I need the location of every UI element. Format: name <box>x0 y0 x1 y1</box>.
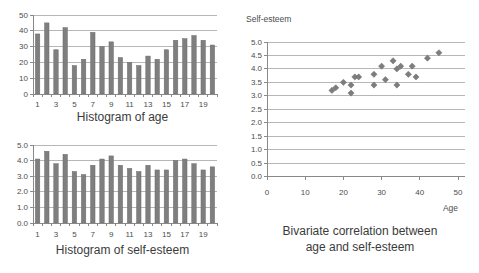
scatter-point <box>371 71 377 77</box>
histogram-bar <box>54 164 58 223</box>
tick-label: 2.5 <box>251 105 263 114</box>
histogram-bar <box>81 59 85 94</box>
histogram-bar <box>100 47 104 94</box>
histogram-bar <box>118 165 122 223</box>
scatter-point <box>379 63 385 69</box>
histogram-bar <box>155 59 159 94</box>
tick-label: 40 <box>19 26 28 35</box>
histogram-bar <box>164 50 168 94</box>
histogram-bar <box>146 56 150 94</box>
tick-label: 4.0 <box>17 156 29 165</box>
histogram-bar <box>72 66 76 94</box>
tick-label: 50 <box>19 11 28 20</box>
tick-label: 7 <box>91 230 96 239</box>
tick-label: 5.0 <box>17 141 29 150</box>
tick-label: 11 <box>125 230 134 239</box>
histogram-bar <box>109 156 113 223</box>
histogram-bar <box>91 32 95 94</box>
scatter-point <box>394 82 400 88</box>
histogram-bar <box>173 161 177 223</box>
tick-label: 15 <box>162 100 171 109</box>
scatter-point <box>348 90 354 96</box>
histogram-bar <box>201 40 205 94</box>
histogram-bar <box>137 66 141 94</box>
histogram-bar <box>63 154 67 223</box>
statistics-figure: 01020304050135791113151719 0.01.02.03.04… <box>0 0 479 273</box>
tick-label: 10 <box>301 188 310 197</box>
tick-label: 19 <box>199 100 208 109</box>
self-esteem-histogram-title: Histogram of self-esteem <box>15 243 230 258</box>
scatter-point <box>390 58 396 64</box>
histogram-bar <box>210 167 214 223</box>
tick-label: 0.0 <box>251 172 263 181</box>
tick-label: 5.0 <box>251 38 263 47</box>
histogram-bar <box>127 62 131 94</box>
tick-label: 5 <box>72 230 77 239</box>
tick-label: 30 <box>19 42 28 51</box>
scatter-point <box>382 77 388 83</box>
tick-label: 3 <box>54 230 59 239</box>
histogram-bar <box>146 165 150 223</box>
tick-label: 17 <box>180 230 189 239</box>
tick-label: 4.5 <box>251 51 263 60</box>
tick-label: 7 <box>91 100 96 109</box>
tick-label: 40 <box>415 188 424 197</box>
tick-label: 0 <box>265 188 270 197</box>
tick-label: 13 <box>144 230 153 239</box>
scatter-point <box>413 74 419 80</box>
tick-label: 19 <box>199 230 208 239</box>
tick-label: 1 <box>35 230 40 239</box>
tick-label: 10 <box>19 74 28 83</box>
tick-label: 4.0 <box>251 64 263 73</box>
tick-label: 20 <box>339 188 348 197</box>
age-histogram-title: Histogram of age <box>15 110 230 125</box>
tick-label: 30 <box>377 188 386 197</box>
tick-label: 9 <box>109 100 114 109</box>
tick-label: 11 <box>125 100 134 109</box>
histogram-bar <box>192 36 196 94</box>
scatter-point <box>371 82 377 88</box>
histogram-bar <box>183 39 187 94</box>
scatter-title-line2: age and self-esteem <box>252 240 468 255</box>
tick-label: 1.0 <box>251 145 263 154</box>
scatter-title-line1: Bivariate correlation between <box>252 224 468 239</box>
histogram-bar <box>35 159 39 223</box>
histogram-bar <box>210 45 214 94</box>
tick-label: 20 <box>19 58 28 67</box>
tick-label: 5 <box>72 100 77 109</box>
scatter-y-axis-title: Self-esteem <box>246 14 291 24</box>
histogram-bar <box>45 23 49 94</box>
histogram-bar <box>127 168 131 223</box>
histogram-bar <box>72 172 76 223</box>
scatter-point <box>409 63 415 69</box>
scatter-point <box>348 82 354 88</box>
tick-label: 9 <box>109 230 114 239</box>
tick-label: 17 <box>180 100 189 109</box>
tick-label: 3.0 <box>17 172 29 181</box>
tick-label: 50 <box>454 188 463 197</box>
tick-label: 0.5 <box>251 159 263 168</box>
histogram-bar <box>91 165 95 223</box>
histogram-bar <box>155 170 159 223</box>
histogram-bar <box>109 42 113 94</box>
tick-label: 3 <box>54 100 59 109</box>
tick-label: 3.5 <box>251 78 263 87</box>
tick-label: 13 <box>144 100 153 109</box>
scatter-point <box>356 74 362 80</box>
scatter-x-axis-title: Age <box>420 203 458 213</box>
histogram-bar <box>45 151 49 223</box>
histogram-bar <box>63 28 67 94</box>
histogram-bar <box>192 164 196 223</box>
scatter-point <box>405 71 411 77</box>
tick-label: 1 <box>35 100 40 109</box>
tick-label: 1.0 <box>17 203 29 212</box>
histogram-bar <box>54 50 58 94</box>
scatter-point <box>424 55 430 61</box>
histogram-bar <box>164 170 168 223</box>
tick-label: 0 <box>24 90 29 99</box>
histogram-bar <box>137 172 141 223</box>
scatter-point <box>436 50 442 56</box>
scatter-point <box>340 79 346 85</box>
histogram-bar <box>35 34 39 94</box>
tick-label: 2.0 <box>17 187 29 196</box>
